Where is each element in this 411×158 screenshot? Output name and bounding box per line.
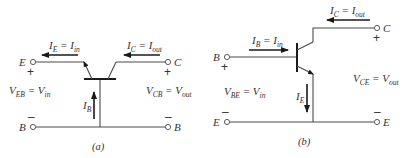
pnp-transistor-symbol [84, 62, 116, 79]
label-ie-equals-iin: IE = Iin [48, 39, 80, 54]
terminal-label-e-right: E [382, 116, 390, 128]
terminal-e-input [30, 59, 35, 64]
terminal-c-output [165, 59, 170, 64]
circuit-a-common-base: E C B B + + – – IE = Iin IC = Iout IB VE… [9, 39, 193, 153]
plus-sign-output: + [373, 31, 380, 45]
emitter-arrow-icon [297, 66, 313, 74]
caption-a: (a) [92, 141, 105, 153]
terminal-label-e: E [18, 56, 26, 68]
label-ie: IE [295, 90, 305, 105]
circuit-b-common-emitter: B C E E + + – – IB = Iin IC = Iout IE VB… [212, 4, 400, 148]
npn-transistor-symbol [297, 42, 313, 74]
terminal-e-input [224, 119, 229, 124]
terminal-label-b-right: B [174, 121, 181, 133]
terminal-label-b: B [213, 51, 220, 63]
terminal-b-output [165, 124, 170, 129]
label-vce-equals-vout: VCE = Vout [353, 72, 400, 87]
transistor-configurations-figure: E C B B + + – – IE = Iin IC = Iout IB VE… [0, 0, 411, 158]
plus-sign-input: + [221, 60, 228, 74]
terminal-b-input [224, 54, 229, 59]
caption-b: (b) [298, 136, 311, 148]
collector-leg [297, 42, 313, 50]
plus-sign-output: + [164, 65, 171, 79]
collector-lead-wire [313, 28, 374, 42]
label-vcb-equals-vout: VCB = Vout [146, 84, 193, 99]
label-ic-equals-iout: IC = Iout [126, 39, 163, 54]
terminal-e-output [374, 119, 379, 124]
minus-sign-output: – [374, 105, 381, 119]
label-ib: IB [82, 99, 92, 114]
minus-sign-output: – [165, 110, 172, 124]
terminal-c-output [374, 25, 379, 30]
terminal-label-c: C [174, 56, 182, 68]
plus-sign-input: + [27, 65, 34, 79]
terminal-label-e-left: E [212, 116, 220, 128]
label-vbe-equals-vin: VBE = Vin [224, 85, 266, 100]
minus-sign-input: – [222, 105, 229, 119]
label-ib-equals-iin: IB = Iin [251, 34, 283, 49]
label-veb-equals-vin: VEB = Vin [9, 84, 51, 99]
terminal-label-b-left: B [19, 121, 26, 133]
label-ic-equals-iout: IC = Iout [329, 4, 366, 19]
terminal-label-c: C [383, 22, 391, 34]
emitter-arrow-icon [84, 62, 92, 79]
collector-leg [108, 62, 116, 79]
terminal-b-input [30, 124, 35, 129]
minus-sign-input: – [28, 110, 35, 124]
